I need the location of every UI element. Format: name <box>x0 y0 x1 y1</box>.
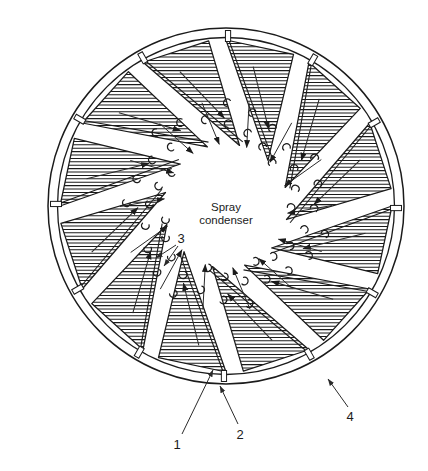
vane-shell-connector <box>51 201 62 206</box>
spray-droplet <box>201 115 208 124</box>
spray-droplet <box>141 223 150 230</box>
spray-droplet <box>270 252 277 261</box>
callout-1: 1 <box>173 370 213 452</box>
spray-droplet <box>166 168 175 177</box>
callout-4-label: 4 <box>346 409 353 424</box>
callout-2: 2 <box>220 386 244 442</box>
center-label: Spray condenser <box>199 201 253 226</box>
callout-3-label: 3 <box>177 231 184 246</box>
spray-condenser-figure: Spray condenser 1 2 3 4 <box>0 0 428 471</box>
spray-droplet <box>161 217 170 224</box>
callout-2-label: 2 <box>236 427 243 442</box>
center-label-line1: Spray <box>211 201 241 213</box>
vane-shell-connector <box>390 205 401 210</box>
vane-shell-connector <box>225 31 230 42</box>
spray-droplet <box>254 257 260 265</box>
inward-spray-arrow <box>247 103 249 148</box>
callout-4: 4 <box>328 379 354 424</box>
callout-1-label: 1 <box>173 437 180 452</box>
spray-droplet <box>242 277 249 286</box>
vane-shell-connector <box>221 370 226 381</box>
spray-droplet <box>167 143 174 152</box>
center-label-line2: condenser <box>199 214 253 226</box>
spray-droplet <box>300 224 309 233</box>
spray-droplet <box>287 202 296 210</box>
spray-droplet <box>282 143 291 150</box>
spray-droplet <box>291 184 300 191</box>
